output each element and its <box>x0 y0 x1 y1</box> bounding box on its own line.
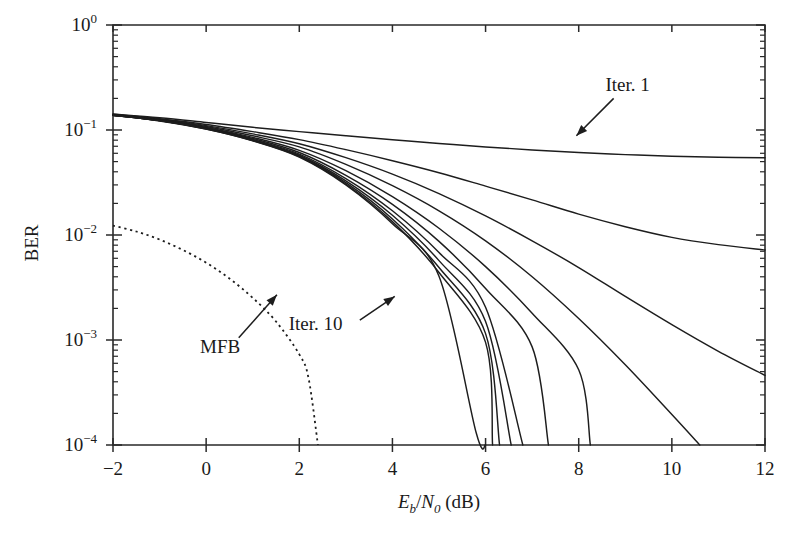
x-tick-label-0: −2 <box>103 458 123 479</box>
chart-svg: −2024681012 10010−110−210−310−4 Iter. 1I… <box>0 0 812 538</box>
data-series-group <box>113 114 765 449</box>
y-axis-ticks <box>106 25 765 445</box>
series-line-iter-9 <box>113 115 500 445</box>
svg-text:BER: BER <box>21 224 42 261</box>
annotation-label-iter-1: Iter. 1 <box>605 74 649 95</box>
series-line-iter-6 <box>113 115 548 445</box>
annotation-label-mfb: MFB <box>200 336 240 357</box>
x-tick-label-1: 0 <box>201 458 211 479</box>
y-tick-label-1: 10−1 <box>64 116 97 140</box>
y-tick-label-4: 10−4 <box>64 431 97 455</box>
axes-frame <box>113 25 765 445</box>
y-axis-tick-labels: 10010−110−210−310−4 <box>64 11 97 455</box>
y-tick-label-0: 100 <box>72 11 98 35</box>
y-tick-label-2: 10−2 <box>64 221 97 245</box>
x-axis-title: Eb/N0 (dB) <box>397 491 480 516</box>
x-tick-label-7: 12 <box>756 458 775 479</box>
annotation-label-iter-10: Iter. 10 <box>289 313 343 334</box>
annotation-arrowhead-1 <box>383 296 394 306</box>
x-tick-label-4: 6 <box>481 458 491 479</box>
ber-performance-chart: −2024681012 10010−110−210−310−4 Iter. 1I… <box>0 0 812 538</box>
series-line-iter-11 <box>113 115 486 449</box>
series-line-iter-10 <box>113 115 493 445</box>
x-tick-label-3: 4 <box>388 458 398 479</box>
y-tick-label-3: 10−3 <box>64 326 97 350</box>
series-line-iter-5 <box>113 115 590 445</box>
x-axis-tick-labels: −2024681012 <box>103 458 775 479</box>
x-tick-label-2: 2 <box>295 458 305 479</box>
series-line-iter-1 <box>113 114 765 158</box>
y-axis-title: BER <box>21 224 42 261</box>
svg-text:Eb/N0 (dB): Eb/N0 (dB) <box>397 491 480 516</box>
series-line-iter-2 <box>113 114 765 250</box>
x-tick-label-5: 8 <box>574 458 584 479</box>
x-tick-label-6: 10 <box>662 458 681 479</box>
series-line-iter-8 <box>113 115 511 445</box>
x-axis-ticks <box>113 25 765 452</box>
